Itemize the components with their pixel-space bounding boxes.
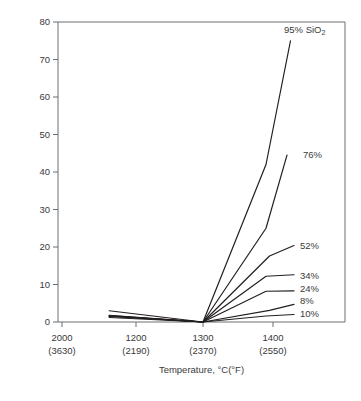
data-series-layer [109, 41, 294, 322]
series-label-24: 24% [300, 284, 319, 294]
x-tick-group-1300: 1300 (2370) [173, 331, 233, 357]
series-line-34 [109, 275, 294, 322]
chart-figure: 80 70 60 50 40 30 20 10 0 2000 (3630) 12… [0, 0, 361, 401]
x-tick-label-fahrenheit: (2550) [243, 344, 303, 357]
x-tick-group-2000: 2000 (3630) [32, 331, 92, 357]
series-label-34: 34% [300, 271, 319, 281]
x-tick-label-fahrenheit: (3630) [32, 344, 92, 357]
series-label-95-sio2: 95% SiO2 [284, 25, 325, 36]
x-tick-label-fahrenheit: (2370) [173, 344, 233, 357]
x-tick-group-1400: 1400 (2550) [243, 331, 303, 357]
x-tick-label-celsius: 1200 [106, 331, 166, 344]
x-tick-label-fahrenheit: (2190) [106, 344, 166, 357]
y-tick-label-60: 60 [26, 92, 50, 102]
series-label-8: 8% [300, 296, 314, 306]
x-tick-label-celsius: 1400 [243, 331, 303, 344]
series-label-76: 76% [303, 150, 322, 160]
y-tick-label-30: 30 [26, 205, 50, 215]
x-tick-label-celsius: 1300 [173, 331, 233, 344]
x-axis-ticks [62, 322, 273, 327]
y-tick-label-10: 10 [26, 280, 50, 290]
series-line-10 [109, 315, 294, 323]
y-axis-title: Weight loss, % [0, 165, 61, 191]
series-line-95-sio2 [109, 41, 290, 322]
y-tick-label-50: 50 [26, 130, 50, 140]
series-label-10: 10% [300, 309, 319, 319]
y-tick-label-80: 80 [26, 17, 50, 27]
x-axis-title: Temperature, °C(°F) [58, 364, 345, 375]
y-tick-label-0: 0 [26, 317, 50, 327]
y-tick-label-70: 70 [26, 55, 50, 65]
y-tick-label-20: 20 [26, 242, 50, 252]
x-tick-group-1200: 1200 (2190) [106, 331, 166, 357]
series-label-52: 52% [300, 241, 319, 251]
x-tick-label-celsius: 2000 [32, 331, 92, 344]
series-label-subscript: 2 [322, 29, 326, 36]
